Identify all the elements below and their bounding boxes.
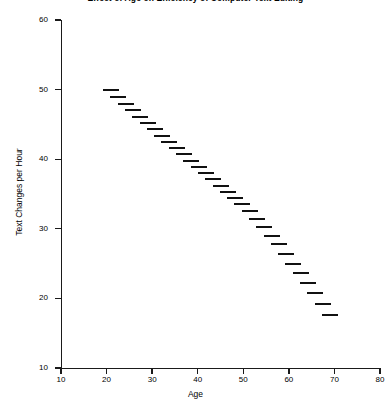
y-tick-label-20: 20 <box>22 294 48 302</box>
x-axis-line <box>61 368 380 369</box>
data-point <box>249 218 265 220</box>
data-point <box>322 314 338 316</box>
x-tick-30 <box>151 368 152 374</box>
chart-canvas: Effect of Age on Efficiency of Computer … <box>0 0 391 403</box>
data-point <box>227 197 243 199</box>
y-axis-line <box>61 20 62 369</box>
y-tick-label-40: 40 <box>22 155 48 163</box>
data-point <box>278 253 294 255</box>
x-axis-title: Age <box>0 389 391 399</box>
x-tick-20 <box>106 368 107 374</box>
x-tick-label-10: 10 <box>46 376 76 384</box>
y-tick-30 <box>55 228 61 229</box>
y-tick-label-10: 10 <box>22 364 48 372</box>
y-tick-60 <box>55 19 61 20</box>
y-axis-title: Text Changes per Hour <box>14 117 24 267</box>
y-tick-50 <box>55 89 61 90</box>
x-tick-80 <box>379 368 380 374</box>
y-tick-20 <box>55 298 61 299</box>
data-point <box>183 160 199 162</box>
x-tick-50 <box>243 368 244 374</box>
data-point <box>285 263 301 265</box>
x-tick-60 <box>288 368 289 374</box>
data-point <box>140 122 156 124</box>
x-tick-10 <box>60 368 61 374</box>
data-point <box>176 153 192 155</box>
data-point <box>103 89 119 91</box>
data-point <box>205 178 221 180</box>
x-tick-label-50: 50 <box>228 376 258 384</box>
data-point <box>307 292 323 294</box>
data-point <box>242 210 258 212</box>
y-tick-label-30: 30 <box>22 225 48 233</box>
data-point <box>234 203 250 205</box>
data-point <box>125 109 141 111</box>
data-point <box>147 128 163 130</box>
data-point <box>198 172 214 174</box>
data-point <box>315 303 331 305</box>
data-point <box>271 243 287 245</box>
x-tick-label-40: 40 <box>183 376 213 384</box>
x-tick-40 <box>197 368 198 374</box>
x-tick-label-60: 60 <box>274 376 304 384</box>
data-point <box>256 226 272 228</box>
data-point <box>110 96 126 98</box>
chart-title: Effect of Age on Efficiency of Computer … <box>0 0 391 3</box>
data-point <box>264 235 280 237</box>
data-point <box>220 191 236 193</box>
y-tick-label-60: 60 <box>22 16 48 24</box>
y-tick-label-50: 50 <box>22 86 48 94</box>
data-point <box>132 116 148 118</box>
x-tick-label-20: 20 <box>92 376 122 384</box>
x-tick-label-30: 30 <box>137 376 167 384</box>
data-point <box>293 272 309 274</box>
data-point <box>191 166 207 168</box>
data-point <box>300 282 316 284</box>
data-point <box>118 103 134 105</box>
x-tick-label-70: 70 <box>319 376 349 384</box>
x-tick-label-80: 80 <box>365 376 391 384</box>
x-tick-70 <box>334 368 335 374</box>
data-point <box>161 141 177 143</box>
data-point <box>213 185 229 187</box>
data-point <box>169 147 185 149</box>
y-tick-40 <box>55 159 61 160</box>
data-point <box>154 135 170 137</box>
